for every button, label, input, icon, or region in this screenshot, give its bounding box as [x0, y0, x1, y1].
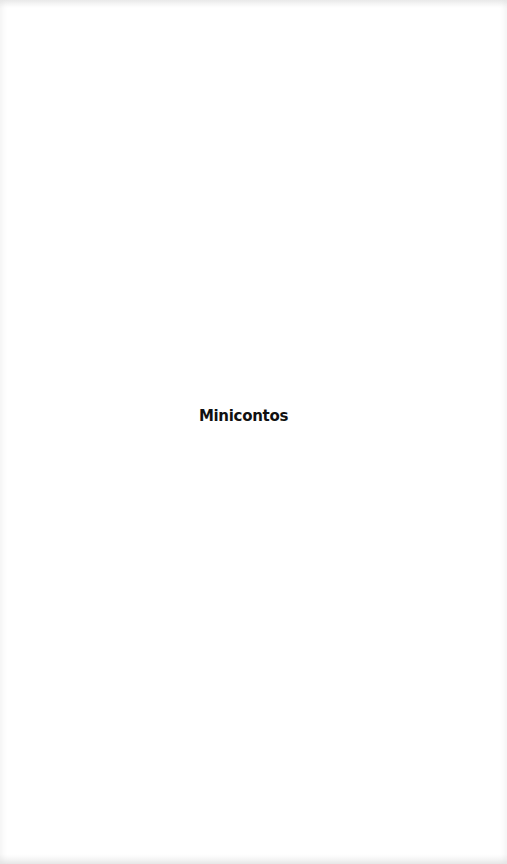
document-title: Minicontos	[0, 407, 487, 425]
document-page: Minicontos	[0, 0, 507, 864]
page-edge-bottom	[0, 854, 507, 864]
page-edge-top	[0, 0, 507, 8]
